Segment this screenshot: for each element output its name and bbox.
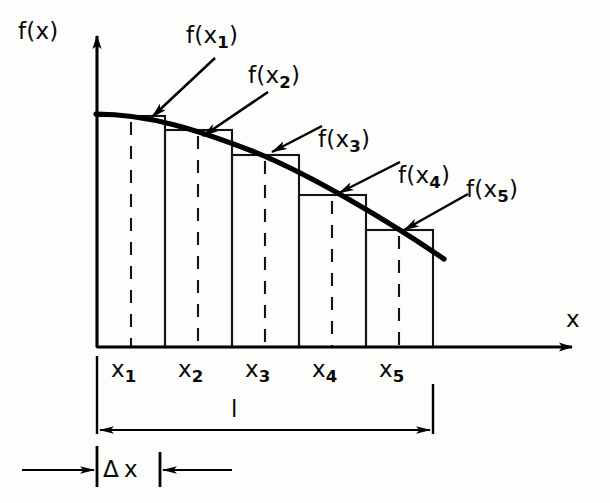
callout-arrow-f3 [272,126,322,152]
tick-x5-base: x [379,356,393,382]
tick-x3-sub: 3 [259,367,271,386]
callout-label-f3: f(x3) [318,126,370,156]
callout-label-f5: f(x5) [466,176,518,206]
tick-x4-base: x [312,356,326,382]
callout-label-f1: f(x1) [186,22,238,52]
callout-f1-close: ) [229,22,238,48]
callout-arrow-f5 [404,194,468,230]
callout-f3-base: f(x [318,126,349,152]
callout-f2-sub: 2 [279,73,291,92]
length-label: l [231,396,238,422]
tick-label-x2: x2 [178,356,204,386]
tick-x3-base: x [245,356,259,382]
callout-f1-base: f(x [186,22,217,48]
callout-f4-base: f(x [398,162,429,188]
callout-arrow-f4 [339,162,400,193]
tick-label-x1: x1 [111,356,137,386]
function-curve [96,114,444,259]
callout-f5-close: ) [509,176,518,202]
callout-arrow-f1 [152,58,215,117]
callout-f3-close: ) [361,126,370,152]
callout-label-f4: f(x4) [398,162,450,192]
riemann-sum-figure: f(x) x f(x1) f(x2) f(x3) f(x4) f(x5) x1 … [0,0,610,503]
tick-x1-base: x [111,356,125,382]
tick-label-x5: x5 [379,356,405,386]
figure-canvas [0,0,610,503]
callout-f4-sub: 4 [429,173,441,192]
callout-f5-sub: 5 [497,187,509,206]
tick-label-x4: x4 [312,356,338,386]
delta-x-label: Δx [103,456,138,482]
tick-label-x3: x3 [245,356,271,386]
y-axis-label: f(x) [18,18,58,44]
callout-f4-close: ) [441,162,450,188]
callout-label-f2: f(x2) [248,62,300,92]
tick-x4-sub: 4 [326,367,338,386]
callout-f5-base: f(x [466,176,497,202]
callout-f2-close: ) [291,62,300,88]
callout-f2-base: f(x [248,62,279,88]
bar-3 [232,155,299,347]
callout-arrow-f2 [203,92,268,136]
callout-f1-sub: 1 [217,33,229,52]
tick-x1-sub: 1 [125,367,137,386]
delta-symbol: Δ [103,456,119,482]
tick-x2-sub: 2 [192,367,204,386]
tick-x5-sub: 5 [393,367,405,386]
delta-variable: x [124,456,138,482]
x-axis-label: x [566,306,580,332]
tick-x2-base: x [178,356,192,382]
callout-arrow-group [152,58,468,230]
callout-f3-sub: 3 [349,137,361,156]
